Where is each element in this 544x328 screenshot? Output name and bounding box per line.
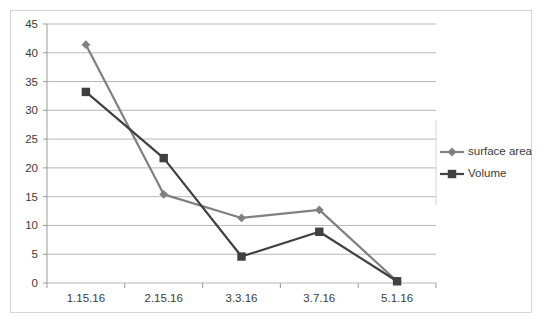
x-tick-label: 1.15.16 bbox=[67, 292, 105, 304]
diamond-marker bbox=[448, 148, 457, 157]
x-tick-marks bbox=[47, 283, 436, 288]
series-surface-area bbox=[82, 40, 402, 285]
diamond-marker bbox=[159, 190, 168, 199]
line-chart: 051015202530354045 1.15.162.15.163.3.163… bbox=[0, 0, 544, 328]
legend-label: Volume bbox=[468, 167, 506, 179]
y-tick-label: 45 bbox=[25, 18, 38, 30]
y-tick-label: 30 bbox=[25, 104, 38, 116]
legend-item: Volume bbox=[440, 167, 506, 179]
y-tick-label: 5 bbox=[32, 248, 38, 260]
series-volume bbox=[82, 88, 402, 286]
y-tick-label: 35 bbox=[25, 76, 38, 88]
legend-item: surface area bbox=[440, 145, 533, 157]
y-tick-marks bbox=[43, 24, 47, 283]
square-marker bbox=[315, 228, 323, 236]
chart-legend: surface areaVolume bbox=[440, 145, 533, 179]
x-tick-label: 2.15.16 bbox=[145, 292, 183, 304]
square-marker bbox=[237, 252, 245, 260]
x-tick-label: 5.1.16 bbox=[381, 292, 413, 304]
square-marker bbox=[82, 88, 90, 96]
series-line bbox=[86, 45, 397, 282]
x-tick-label: 3.7.16 bbox=[303, 292, 335, 304]
diamond-marker bbox=[237, 214, 246, 223]
x-tick-label: 3.3.16 bbox=[226, 292, 258, 304]
square-marker bbox=[160, 154, 168, 162]
y-axis-tick-labels: 051015202530354045 bbox=[25, 18, 38, 289]
y-tick-label: 10 bbox=[25, 219, 38, 231]
y-tick-label: 0 bbox=[32, 277, 38, 289]
y-tick-label: 40 bbox=[25, 47, 38, 59]
gridlines bbox=[47, 24, 436, 283]
square-marker bbox=[448, 170, 456, 178]
diamond-marker bbox=[82, 40, 91, 49]
y-tick-label: 25 bbox=[25, 133, 38, 145]
square-marker bbox=[393, 277, 401, 285]
data-series-group bbox=[82, 40, 402, 285]
y-tick-label: 15 bbox=[25, 191, 38, 203]
legend-label: surface area bbox=[468, 145, 533, 157]
y-tick-label: 20 bbox=[25, 162, 38, 174]
x-axis-tick-labels: 1.15.162.15.163.3.163.7.165.1.16 bbox=[67, 292, 413, 304]
